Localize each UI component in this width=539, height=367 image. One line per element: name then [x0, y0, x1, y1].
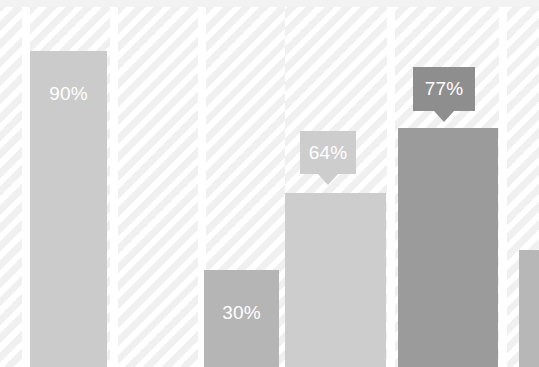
bar-3[interactable]	[285, 193, 386, 367]
value-callout[interactable]: 77%	[413, 67, 475, 111]
callout-pointer-icon	[318, 174, 338, 185]
bar-value-label: 90%	[30, 83, 107, 105]
stripe-column	[0, 5, 22, 367]
bar-4[interactable]	[398, 128, 498, 367]
bar-chart: 90%30% 64%77%	[0, 0, 539, 367]
bar-value-label: 30%	[204, 302, 279, 324]
callout-pointer-icon	[434, 111, 454, 122]
value-callout[interactable]: 64%	[300, 131, 356, 174]
stripe-column	[118, 5, 198, 367]
callout-value-label: 64%	[309, 142, 348, 164]
bar-2[interactable]: 30%	[204, 270, 279, 367]
bar-5[interactable]	[519, 250, 539, 367]
callout-value-label: 77%	[425, 78, 464, 100]
bar-1[interactable]: 90%	[30, 51, 107, 367]
top-edge-band	[0, 0, 539, 7]
